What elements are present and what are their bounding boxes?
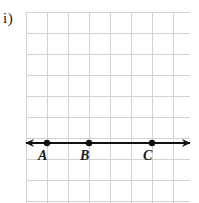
grid-lines-svg xyxy=(26,12,190,203)
grid-area xyxy=(26,12,190,203)
point-label-a: A xyxy=(38,149,47,163)
number-line-figure: i) ABC xyxy=(0,0,199,203)
point-label-c: C xyxy=(143,149,152,163)
point-label-b: B xyxy=(80,149,89,163)
grid-group xyxy=(26,12,190,203)
item-label: i) xyxy=(3,10,13,26)
